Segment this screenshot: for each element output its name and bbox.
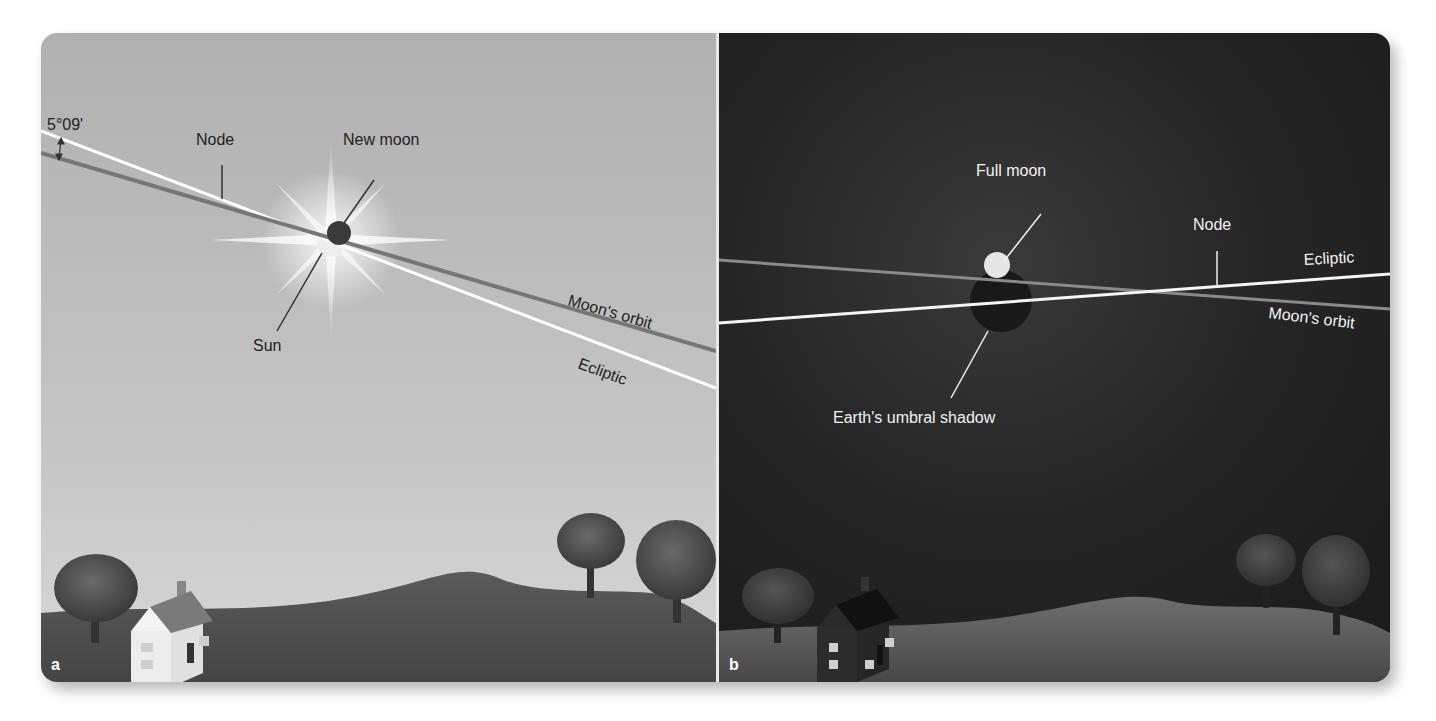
- panel-label-a: a: [51, 656, 60, 673]
- eclipse-diagram-figure: 5°09' Node New moon Sun Moon's orbit Ecl…: [41, 33, 1390, 682]
- panel-a: 5°09' Node New moon Sun Moon's orbit Ecl…: [41, 33, 716, 682]
- node-label-b: Node: [1193, 216, 1231, 233]
- night-sky: [719, 33, 1390, 682]
- full-moon-label: Full moon: [976, 162, 1046, 179]
- panel-label-b: b: [729, 656, 739, 673]
- sun-label: Sun: [253, 337, 281, 354]
- new-moon-label: New moon: [343, 131, 419, 148]
- eclipse-diagram-svg: 5°09' Node New moon Sun Moon's orbit Ecl…: [41, 33, 1390, 682]
- full-moon-icon: [984, 252, 1010, 278]
- panel-b: Full moon Node Ecliptic Moon's orbit Ear…: [719, 33, 1390, 682]
- umbral-shadow-label: Earth's umbral shadow: [833, 409, 996, 426]
- node-label-a: Node: [196, 131, 234, 148]
- ecliptic-label-b: Ecliptic: [1303, 248, 1355, 268]
- new-moon-icon: [327, 221, 351, 245]
- panel-divider: [716, 33, 719, 682]
- angle-label: 5°09': [47, 116, 83, 133]
